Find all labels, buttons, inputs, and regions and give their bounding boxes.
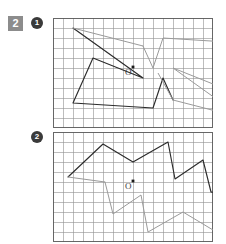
grid-figure-1: O	[53, 18, 213, 128]
item-bullet-2: 2	[31, 131, 43, 143]
center-point-dot-2	[132, 180, 135, 183]
item-bullet-1: 1	[31, 17, 43, 29]
figure-panel-2: O	[53, 132, 213, 242]
grid-figure-2: O	[53, 132, 213, 242]
worksheet-page: 2 1 2	[0, 0, 226, 244]
exercise-number-chip: 2	[8, 16, 23, 31]
figure-panel-1: O	[53, 18, 213, 128]
center-point-label-2: O	[125, 181, 132, 191]
center-point-dot-1	[132, 66, 135, 69]
center-point-label-1: O	[125, 67, 132, 77]
